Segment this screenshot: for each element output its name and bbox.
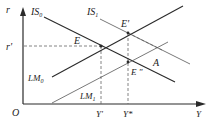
curves xyxy=(44,6,190,103)
point-e-prime-label: E' xyxy=(120,18,130,29)
is1-curve xyxy=(100,19,190,64)
is0-label: IS0 xyxy=(30,6,42,18)
y-prime-label: Y' xyxy=(96,109,104,119)
is1-label: IS1 xyxy=(86,6,98,18)
point-e-double-label: E " xyxy=(130,67,143,77)
points xyxy=(99,32,129,64)
lm1-label: LM1 xyxy=(79,91,96,102)
lm1-curve xyxy=(52,42,168,103)
y-axis-arrow-icon xyxy=(20,7,26,16)
axes xyxy=(20,7,206,107)
point-e-prime xyxy=(127,32,130,35)
lm0-label: LM0 xyxy=(27,73,44,84)
point-e-label: E xyxy=(73,35,80,46)
is-lm-diagram: r Y O IS0 IS1 LM0 LM1 r' E E' E " A Y' Y… xyxy=(0,0,212,120)
r-prime-label: r' xyxy=(6,41,13,52)
lm0-curve xyxy=(52,6,183,77)
point-a-label: A xyxy=(152,57,160,68)
x-axis-arrow-icon xyxy=(196,101,206,107)
point-e-double xyxy=(127,61,130,64)
is0-curve xyxy=(44,17,175,82)
y-star-label: Y* xyxy=(123,109,133,119)
y-axis-label: r xyxy=(6,4,10,15)
x-axis-label: Y xyxy=(196,109,202,119)
origin-label: O xyxy=(12,107,19,118)
point-e xyxy=(99,44,102,47)
